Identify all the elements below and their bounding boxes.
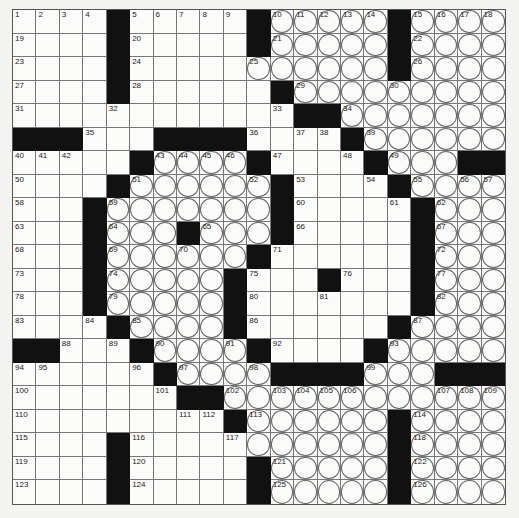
grid-square[interactable] (271, 316, 294, 340)
circled-square[interactable] (458, 81, 481, 105)
circled-square[interactable] (458, 269, 481, 293)
grid-square[interactable] (36, 457, 59, 481)
grid-square[interactable]: 23 (13, 57, 36, 81)
grid-square[interactable]: 83 (13, 316, 36, 340)
circled-square[interactable] (435, 410, 458, 434)
circled-square[interactable] (458, 104, 481, 128)
grid-square[interactable] (341, 198, 364, 222)
grid-square[interactable] (177, 57, 200, 81)
circled-square[interactable] (482, 457, 505, 481)
grid-square[interactable] (318, 222, 341, 246)
grid-square[interactable] (271, 128, 294, 152)
circled-square[interactable] (482, 316, 505, 340)
grid-square[interactable] (60, 57, 83, 81)
grid-square[interactable]: 88 (60, 339, 83, 363)
circled-square[interactable]: 51 (130, 175, 153, 199)
circled-square[interactable] (271, 410, 294, 434)
grid-square[interactable]: 124 (130, 480, 153, 504)
grid-square[interactable] (36, 81, 59, 105)
circled-square[interactable]: 29 (294, 81, 317, 105)
circled-square[interactable] (200, 339, 223, 363)
circled-square[interactable] (154, 269, 177, 293)
circled-square[interactable]: 39 (364, 128, 387, 152)
circled-square[interactable] (458, 316, 481, 340)
circled-square[interactable] (482, 104, 505, 128)
grid-square[interactable]: 24 (130, 57, 153, 81)
circled-square[interactable]: 69 (107, 245, 130, 269)
circled-square[interactable] (458, 57, 481, 81)
grid-square[interactable]: 61 (388, 198, 411, 222)
circled-square[interactable] (200, 316, 223, 340)
grid-square[interactable]: 41 (36, 151, 59, 175)
circled-square[interactable] (341, 433, 364, 457)
grid-square[interactable]: 5 (130, 10, 153, 34)
grid-square[interactable] (200, 457, 223, 481)
circled-square[interactable] (341, 457, 364, 481)
grid-square[interactable]: 8 (200, 10, 223, 34)
circled-square[interactable] (458, 128, 481, 152)
circled-square[interactable]: 103 (271, 386, 294, 410)
grid-square[interactable] (60, 269, 83, 293)
circled-square[interactable] (224, 363, 247, 387)
grid-square[interactable] (83, 363, 106, 387)
grid-square[interactable] (200, 433, 223, 457)
circled-square[interactable] (224, 175, 247, 199)
grid-square[interactable] (177, 457, 200, 481)
grid-square[interactable] (83, 386, 106, 410)
grid-square[interactable]: 35 (83, 128, 106, 152)
grid-square[interactable] (60, 363, 83, 387)
circled-square[interactable] (411, 386, 434, 410)
grid-square[interactable] (224, 81, 247, 105)
circled-square[interactable] (177, 339, 200, 363)
circled-square[interactable] (130, 292, 153, 316)
circled-square[interactable] (294, 410, 317, 434)
grid-square[interactable] (364, 269, 387, 293)
circled-square[interactable] (177, 175, 200, 199)
grid-square[interactable] (154, 480, 177, 504)
circled-square[interactable] (154, 222, 177, 246)
grid-square[interactable] (83, 339, 106, 363)
grid-square[interactable] (107, 363, 130, 387)
grid-square[interactable] (224, 104, 247, 128)
circled-square[interactable] (200, 245, 223, 269)
grid-square[interactable] (364, 245, 387, 269)
grid-square[interactable] (36, 433, 59, 457)
grid-square[interactable]: 58 (13, 198, 36, 222)
circled-square[interactable] (294, 480, 317, 504)
grid-square[interactable] (177, 34, 200, 58)
circled-square[interactable] (435, 480, 458, 504)
circled-square[interactable]: 43 (154, 151, 177, 175)
circled-square[interactable] (154, 198, 177, 222)
circled-square[interactable] (154, 292, 177, 316)
circled-square[interactable]: 14 (364, 10, 387, 34)
grid-square[interactable] (224, 480, 247, 504)
grid-square[interactable] (83, 410, 106, 434)
grid-square[interactable] (60, 292, 83, 316)
grid-square[interactable]: 76 (341, 269, 364, 293)
grid-square[interactable]: 40 (13, 151, 36, 175)
circled-square[interactable] (411, 104, 434, 128)
circled-square[interactable] (482, 339, 505, 363)
circled-square[interactable] (364, 386, 387, 410)
circled-square[interactable] (318, 433, 341, 457)
grid-square[interactable] (36, 269, 59, 293)
circled-square[interactable]: 34 (341, 104, 364, 128)
circled-square[interactable] (224, 245, 247, 269)
circled-square[interactable] (364, 457, 387, 481)
grid-square[interactable] (318, 339, 341, 363)
grid-square[interactable]: 96 (130, 363, 153, 387)
circled-square[interactable]: 91 (224, 339, 247, 363)
circled-square[interactable]: 52 (247, 175, 270, 199)
circled-square[interactable] (482, 480, 505, 504)
circled-square[interactable]: 72 (435, 245, 458, 269)
circled-square[interactable] (458, 339, 481, 363)
circled-square[interactable] (482, 198, 505, 222)
grid-square[interactable]: 4 (83, 10, 106, 34)
circled-square[interactable]: 16 (435, 10, 458, 34)
grid-square[interactable]: 123 (13, 480, 36, 504)
circled-square[interactable] (130, 198, 153, 222)
grid-square[interactable]: 3 (60, 10, 83, 34)
circled-square[interactable] (435, 316, 458, 340)
grid-square[interactable] (177, 104, 200, 128)
grid-square[interactable]: 27 (13, 81, 36, 105)
